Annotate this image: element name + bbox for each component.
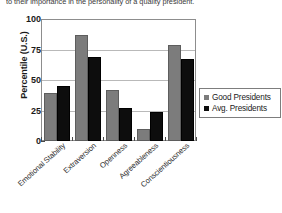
bar-avg — [57, 86, 70, 141]
bar-avg — [119, 108, 132, 141]
chart-legend: Good PresidentsAvg. Presidents — [199, 88, 281, 118]
figure-caption: to their importance in the personality o… — [6, 0, 278, 7]
x-tick-mark — [103, 137, 104, 141]
y-axis-ticks: 0255075100 — [8, 19, 41, 141]
bar-group — [137, 19, 163, 141]
legend-item[interactable]: Avg. Presidents — [204, 103, 278, 114]
bar-group — [106, 19, 132, 141]
bar-good — [75, 35, 88, 141]
legend-swatch-icon — [204, 106, 209, 111]
bars-layer — [41, 19, 196, 141]
x-tick-mark — [134, 137, 135, 141]
y-tick-label-25: 25 — [15, 106, 41, 116]
x-axis-labels: Emotional StabilityExtraversionOpennessA… — [41, 141, 196, 211]
x-tick-mark — [165, 137, 166, 141]
y-tick-label-0: 0 — [15, 136, 41, 146]
bar-avg — [150, 112, 163, 141]
legend-item[interactable]: Good Presidents — [204, 92, 278, 103]
bar-group — [75, 19, 101, 141]
y-tick-label-100: 100 — [15, 14, 41, 24]
bar-group — [44, 19, 70, 141]
bar-chart-figure: Percentile (U.S.) 0255075100 Emotional S… — [0, 8, 282, 213]
bar-avg — [181, 59, 194, 141]
bar-good — [106, 90, 119, 141]
x-axis-label: Emotional Stability — [15, 141, 66, 188]
bar-good — [168, 45, 181, 141]
x-tick-mark — [41, 137, 42, 141]
legend-label: Avg. Presidents — [212, 104, 267, 113]
legend-label: Good Presidents — [212, 93, 271, 102]
bar-good — [137, 129, 150, 141]
y-tick-label-50: 50 — [15, 75, 41, 85]
bar-group — [168, 19, 194, 141]
bar-avg — [88, 57, 101, 141]
bar-good — [44, 93, 57, 141]
x-tick-mark — [196, 137, 197, 141]
legend-swatch-icon — [204, 95, 209, 100]
x-axis-label: Openness — [97, 141, 128, 170]
y-tick-label-75: 75 — [15, 45, 41, 55]
x-tick-mark — [72, 137, 73, 141]
